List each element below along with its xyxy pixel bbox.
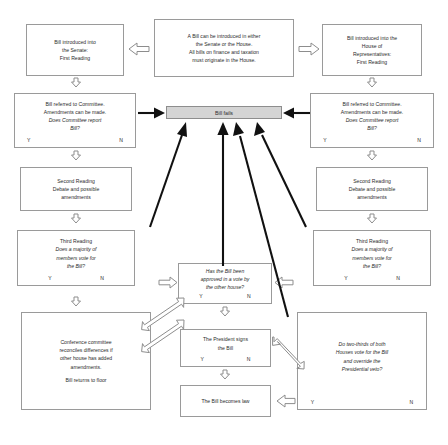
senate-third-reading-yn: Y N <box>18 274 134 282</box>
senate-committee-yes: Y <box>27 136 30 144</box>
senate-first-reading-line-1: Bill introduced into <box>54 38 96 46</box>
senate-third-reading-line-1: Third Reading <box>60 237 92 245</box>
senate-committee-line-2: Amendments can be made. <box>44 108 106 116</box>
house-first-reading-line-1: Bill introduced into the <box>347 34 397 42</box>
senate-second-reading-line-3: amendments <box>61 193 90 201</box>
conference-committee-line-3: other house has added <box>60 354 112 362</box>
arrow-house-committee-to-second <box>366 150 378 161</box>
node-house-second-reading: Second Reading Debate and possible amend… <box>316 167 428 211</box>
conference-committee-line-4: amendments. <box>71 363 102 371</box>
node-senate-third-reading: Third Reading Does a majority of members… <box>17 230 135 286</box>
node-senate-first-reading: Bill introduced into the Senate: First R… <box>26 24 124 76</box>
other-house-vote-yes: Y <box>199 292 202 300</box>
arrow-veto-override-to-becomes-law <box>276 394 296 408</box>
flowchart-canvas: Bill introduced into the Senate: First R… <box>0 0 448 445</box>
arrow-house-committee-to-fail <box>282 106 310 120</box>
node-bill-fails: Bill fails <box>166 106 282 119</box>
veto-override-no: N <box>410 398 414 406</box>
senate-first-reading-line-3: First Reading <box>60 54 90 62</box>
arrow-senate-third-to-fail <box>146 119 192 229</box>
node-veto-override: Do two-thirds of both Houses vote for th… <box>297 312 427 410</box>
house-second-reading-line-1: Second Reading <box>353 177 391 185</box>
node-becomes-law: The Bill becomes law <box>180 385 271 417</box>
conference-committee-footer: Bill returns to floor <box>65 376 106 384</box>
senate-third-reading-no: N <box>100 274 104 282</box>
president-signs-yn: Y N <box>181 355 270 363</box>
house-third-reading-no: N <box>396 274 400 282</box>
arrow-senate-committee-to-fail <box>138 106 166 120</box>
arrow-president-to-veto-override <box>272 336 306 372</box>
house-first-reading-line-4: First Reading <box>357 58 387 66</box>
house-third-reading-question-3: the Bill? <box>363 262 381 270</box>
house-committee-line-2: Amendments can be made. <box>341 108 403 116</box>
arrow-senate-third-to-conference <box>70 296 82 307</box>
senate-third-reading-question-2: members vote for <box>56 254 96 262</box>
house-committee-question-2: Bill? <box>367 124 377 132</box>
node-house-committee: Bill referred to Committee. Amendments c… <box>310 93 434 148</box>
arrow-house-first-to-committee <box>366 77 378 88</box>
house-third-reading-line-1: Third Reading <box>356 237 388 245</box>
node-conference-committee: Conference committee reconciles differen… <box>21 312 151 410</box>
senate-third-reading-question-3: the Bill? <box>67 262 85 270</box>
house-first-reading-line-3: Representatives: <box>353 50 391 58</box>
senate-second-reading-line-1: Second Reading <box>57 177 95 185</box>
president-signs-yes: Y <box>201 355 204 363</box>
house-third-reading-yn: Y N <box>314 274 430 282</box>
house-committee-no: N <box>417 136 421 144</box>
house-committee-line-1: Bill referred to Committee. <box>342 100 401 108</box>
house-third-reading-question-2: members vote for <box>352 254 392 262</box>
house-committee-yes: Y <box>323 136 326 144</box>
house-third-reading-question-1: Does a majority of <box>351 245 392 253</box>
senate-committee-yn: Y N <box>15 136 135 144</box>
node-house-first-reading: Bill introduced into the House of Repres… <box>322 24 422 76</box>
arrow-president-to-becomes-law <box>219 369 231 380</box>
senate-second-reading-line-2: Debate and possible <box>53 185 99 193</box>
node-senate-second-reading: Second Reading Debate and possible amend… <box>20 167 132 211</box>
senate-committee-question-1: Does Committee report <box>49 116 102 124</box>
house-first-reading-line-2: House of <box>362 42 382 50</box>
arrow-house-third-to-fail <box>248 119 310 229</box>
arrow-senate-third-to-other-house <box>158 276 178 289</box>
senate-committee-line-1: Bill referred to Committee. <box>45 100 104 108</box>
president-signs-no: N <box>247 355 251 363</box>
bill-fails-label: Bill fails <box>215 110 233 116</box>
arrow-senate-committee-to-second <box>70 150 82 161</box>
arrow-note-to-house <box>298 42 320 56</box>
conference-committee-line-2: reconciles differences if <box>59 346 112 354</box>
senate-first-reading-line-2: the Senate: <box>62 46 88 54</box>
president-signs-line-1: The President signs <box>203 335 248 343</box>
president-signs-line-2: the Bill <box>218 344 233 352</box>
senate-committee-question-2: Bill? <box>70 124 80 132</box>
node-house-third-reading: Third Reading Does a majority of members… <box>313 230 431 286</box>
house-second-reading-line-3: amendments <box>357 193 386 201</box>
senate-committee-no: N <box>119 136 123 144</box>
arrow-senate-second-to-third <box>70 213 82 224</box>
arrow-senate-first-to-committee <box>70 77 82 88</box>
veto-override-question-2: Houses vote for the Bill <box>336 348 388 356</box>
intro-note-line-4: must originate in the House. <box>192 56 255 64</box>
veto-override-question-1: Do two-thirds of both <box>339 340 386 348</box>
veto-override-yn: Y N <box>298 398 426 406</box>
veto-override-question-4: Presidential veto? <box>342 365 383 373</box>
node-senate-committee: Bill referred to Committee. Amendments c… <box>14 93 136 148</box>
arrow-house-second-to-third <box>366 213 378 224</box>
intro-note-line-1: A Bill can be introduced in either <box>188 32 261 40</box>
senate-third-reading-question-1: Does a majority of <box>55 245 96 253</box>
house-second-reading-line-2: Debate and possible <box>349 185 395 193</box>
arrow-note-to-senate <box>128 42 150 56</box>
intro-note-line-2: the Senate or the House. <box>196 40 253 48</box>
conference-committee-line-1: Conference committee <box>60 338 111 346</box>
house-third-reading-yes: Y <box>344 274 347 282</box>
arrow-president-to-conference-lower <box>140 318 186 360</box>
node-president-signs: The President signs the Bill Y N <box>180 329 271 367</box>
becomes-law-label: The Bill becomes law <box>201 397 249 405</box>
veto-override-yes: Y <box>311 398 314 406</box>
node-intro-note: A Bill can be introduced in either the S… <box>154 19 294 77</box>
intro-note-line-3: All bills on finance and taxation <box>189 48 259 56</box>
house-committee-question-1: Does Committee report <box>346 116 399 124</box>
veto-override-question-3: and override the <box>344 357 381 365</box>
house-committee-yn: Y N <box>311 136 433 144</box>
senate-third-reading-yes: Y <box>48 274 51 282</box>
